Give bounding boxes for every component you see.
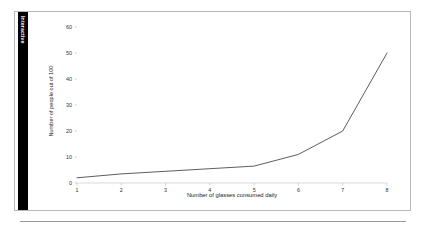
interactive-tab-label: Interactive (20, 16, 26, 44)
bottom-separator (20, 221, 406, 222)
y-tick-label: 20 (66, 128, 72, 134)
x-axis-title: Number of glasses consumed daily (77, 192, 387, 198)
data-series-line (77, 53, 387, 178)
y-tick-label: 50 (66, 50, 72, 56)
chart-card: Interactive Number of people out of 100 … (14, 11, 411, 211)
y-tick-label: 0 (69, 180, 72, 186)
y-tick-group: 0102030405060 (66, 24, 77, 186)
y-tick-label: 30 (66, 102, 72, 108)
y-tick-label: 60 (66, 24, 72, 30)
plot-area: 0102030405060 12345678 (29, 12, 412, 210)
interactive-tab[interactable]: Interactive (18, 12, 28, 210)
y-tick-label: 40 (66, 76, 72, 82)
line-chart: Number of people out of 100 010203040506… (29, 12, 410, 210)
y-tick-label: 10 (66, 154, 72, 160)
